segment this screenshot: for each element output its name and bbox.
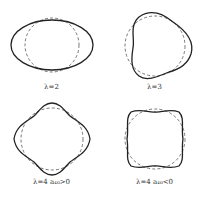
reference-circle (125, 109, 185, 169)
reference-circle (25, 18, 79, 72)
deformed-contour (14, 103, 90, 175)
label-lambda-4-positive: λ=4 a₄₀>0 (0, 178, 103, 186)
deformed-contour (127, 110, 183, 167)
deformed-contour (11, 20, 93, 70)
panel-lambda-2: λ=2 (0, 0, 103, 98)
panel-lambda-4-positive: λ=4 a₄₀>0 (0, 98, 103, 196)
panel-lambda-4-negative: λ=4 a₄₀<0 (103, 98, 206, 196)
panel-lambda-3: λ=3 (103, 0, 206, 98)
label-lambda-3: λ=3 (103, 83, 206, 91)
deformed-contour (132, 13, 192, 79)
label-lambda-2: λ=2 (0, 83, 103, 91)
reference-circle (21, 108, 83, 170)
label-lambda-4-negative: λ=4 a₄₀<0 (103, 178, 206, 186)
